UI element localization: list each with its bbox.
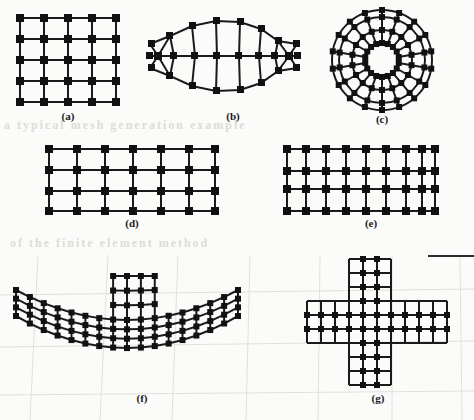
caption-b: (b) (203, 110, 263, 122)
figure-f (2, 262, 246, 372)
figure-a (14, 12, 122, 108)
caption-g: (g) (348, 392, 408, 404)
ghost-text-top (6, 2, 12, 18)
figure-g-mesh (302, 254, 452, 388)
caption-e: (e) (341, 217, 401, 229)
figure-f-mesh (2, 262, 246, 372)
caption-c: (c) (352, 113, 412, 125)
figure-b-mesh (148, 14, 298, 98)
figure-d (44, 144, 220, 216)
figure-c (328, 6, 436, 114)
figure-b (148, 14, 298, 98)
caption-f: (f) (112, 392, 172, 404)
figure-g-lines (307, 259, 447, 385)
caption-a: (a) (38, 110, 98, 122)
figure-g (302, 254, 452, 388)
figure-a-mesh (14, 12, 122, 108)
figure-e-mesh (282, 144, 440, 216)
figure-e (282, 144, 440, 216)
ghost-text-row2: of the finite element method (10, 236, 209, 251)
figure-c-mesh (328, 6, 436, 114)
figure-d-mesh (44, 144, 220, 216)
caption-d: (d) (102, 217, 162, 229)
figure-plate: a typical mesh generation example of the… (0, 0, 474, 420)
